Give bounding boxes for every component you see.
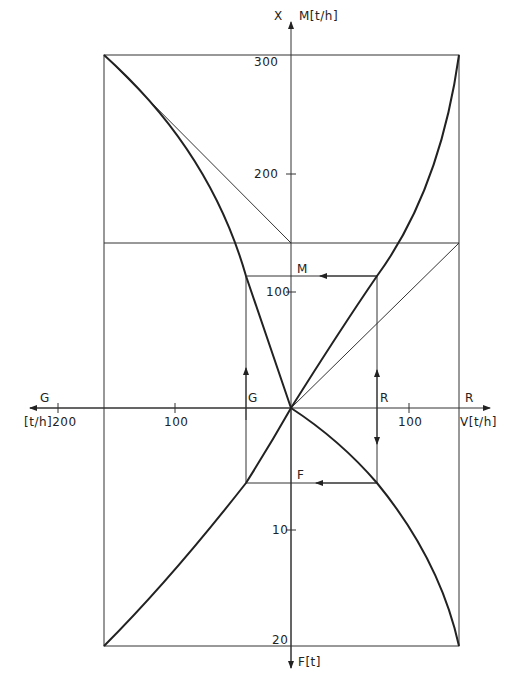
tick-100-left: 100 (164, 416, 188, 428)
tick-300: 300 (254, 56, 278, 68)
inner-label-g: G (248, 392, 258, 404)
tick-10: 10 (272, 524, 288, 536)
axis-g-label: G (40, 392, 50, 404)
axis-f-label: F[t] (298, 656, 321, 668)
axis-m-label: M[t/h] (299, 10, 338, 22)
curve-lower-right (291, 408, 459, 646)
curve-upper-right (291, 55, 459, 408)
outer-frame (104, 55, 459, 646)
tick-20: 20 (272, 634, 288, 646)
nomogram-diagram (0, 0, 519, 695)
tick-200: 200 (254, 168, 278, 180)
axis-x-label: X (274, 10, 283, 22)
tick-100-right: 100 (398, 416, 422, 428)
curve-lower-left (104, 408, 291, 646)
inner-label-m: M (297, 263, 308, 275)
tick-100-up: 100 (266, 286, 290, 298)
axis-r-label: R (465, 392, 474, 404)
diagonal-right (291, 243, 459, 408)
axis-v-label: V[t/h] (460, 416, 497, 428)
curve-upper-left (104, 55, 291, 408)
axis-g-unit: [t/h]200 (24, 416, 77, 428)
inner-label-r: R (380, 392, 389, 404)
inner-label-f: F (297, 469, 304, 481)
